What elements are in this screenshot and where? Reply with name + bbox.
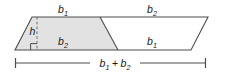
- label-height-base: h: [30, 25, 36, 37]
- label-dimension-right-sub: 2: [125, 63, 130, 72]
- label-inner-left-sub: 2: [63, 41, 68, 50]
- label-top-right: b2: [147, 3, 157, 18]
- label-dimension-operator: +: [112, 57, 118, 69]
- label-top-left-sub: 1: [64, 9, 68, 18]
- label-dimension-left-sub: 1: [105, 63, 109, 72]
- label-top-right-sub: 2: [152, 9, 157, 18]
- geometry-figure: b1 b2 b2 b1 h b1+b2: [0, 0, 228, 72]
- label-inner-right-sub: 1: [153, 41, 157, 50]
- label-top-left: b1: [58, 3, 68, 18]
- label-height: h: [30, 25, 36, 37]
